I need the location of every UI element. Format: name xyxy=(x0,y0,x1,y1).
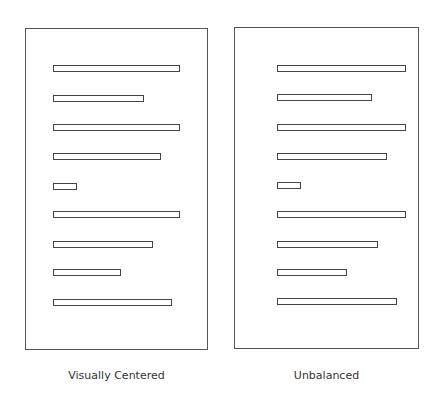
text-line-bar xyxy=(277,211,406,218)
text-line-bar xyxy=(277,124,406,131)
text-line-bar xyxy=(277,182,301,189)
text-line-bar xyxy=(53,124,180,131)
text-line-bar xyxy=(53,241,153,248)
text-line-bar xyxy=(277,153,387,160)
text-line-bar xyxy=(53,299,172,306)
text-line-bar xyxy=(277,269,347,276)
text-line-bar xyxy=(277,241,378,248)
text-line-bar xyxy=(53,183,77,190)
text-line-bar xyxy=(53,95,144,102)
text-line-bar xyxy=(53,153,161,160)
text-line-bar xyxy=(277,65,406,72)
text-line-bar xyxy=(53,65,180,72)
text-line-bar xyxy=(53,211,180,218)
text-line-bar xyxy=(277,94,372,101)
panel-caption-unbalanced: Unbalanced xyxy=(234,369,419,382)
text-line-bar xyxy=(277,298,397,305)
panel-caption-visually-centered: Visually Centered xyxy=(25,369,208,382)
text-line-bar xyxy=(53,269,121,276)
